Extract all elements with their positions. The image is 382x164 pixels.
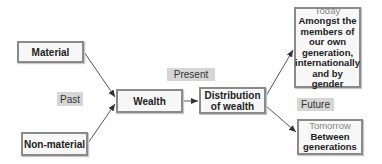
today-line: internationally (295, 58, 360, 69)
material-box: Material (17, 41, 84, 63)
today-line: and by gender (296, 69, 359, 90)
distribution-box: Distribution of wealth (199, 87, 266, 114)
today-line: Amongst the (298, 16, 356, 27)
material-label: Material (32, 47, 70, 58)
wealth-label: Wealth (133, 96, 166, 107)
distribution-label-line1: Distribution (204, 90, 260, 101)
past-tag: Past (57, 92, 83, 106)
today-box: Today Amongst the members of our own gen… (294, 7, 361, 88)
arrow-material-to-wealth (84, 52, 115, 97)
present-tag: Present (167, 68, 215, 81)
non-material-box: Non-material (21, 132, 88, 156)
arrow-nonmaterial-to-wealth (88, 104, 115, 143)
arrow-distribution-to-tomorrow (266, 106, 296, 132)
future-tag: Future (297, 98, 334, 111)
distribution-label-line2: of wealth (211, 101, 254, 112)
non-material-label: Non-material (24, 139, 85, 150)
today-line: our own (309, 37, 346, 48)
tomorrow-line: generations (303, 142, 357, 153)
tomorrow-box: Tomorrow Between generations (297, 119, 363, 155)
wealth-box: Wealth (116, 89, 183, 113)
arrow-distribution-to-today (266, 50, 293, 96)
